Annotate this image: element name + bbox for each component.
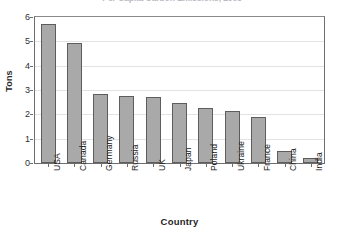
y-tick-label: 4 bbox=[4, 61, 30, 71]
x-tick-mark bbox=[48, 164, 49, 167]
bar bbox=[146, 97, 161, 163]
bar-chart-figure: Per Capita Carbon Emissions, 2005 Tons 0… bbox=[0, 0, 344, 239]
x-tick-label: Canada bbox=[78, 141, 88, 171]
y-tick-label: 3 bbox=[4, 85, 30, 95]
x-tick-label: India bbox=[314, 152, 324, 171]
x-axis-title: Country bbox=[34, 216, 325, 227]
x-axis-labels: USACanadaGermanyRussiaUKJapanPolandUkrai… bbox=[35, 165, 324, 211]
x-tick-mark bbox=[101, 164, 102, 167]
y-tick-mark bbox=[30, 139, 33, 140]
x-tick-mark bbox=[206, 164, 207, 167]
y-tick-mark bbox=[30, 114, 33, 115]
y-tick-label: 0 bbox=[4, 158, 30, 168]
chart-title: Per Capita Carbon Emissions, 2005 bbox=[0, 0, 344, 3]
x-tick-mark bbox=[153, 164, 154, 167]
x-tick-mark bbox=[258, 164, 259, 167]
y-tick-mark bbox=[30, 66, 33, 67]
x-tick-label: USA bbox=[52, 153, 62, 171]
y-tick-label: 6 bbox=[4, 12, 30, 22]
x-tick-mark bbox=[180, 164, 181, 167]
x-tick-label: UK bbox=[157, 159, 167, 171]
y-tick-label: 2 bbox=[4, 109, 30, 119]
y-axis-ticks: 0123456 bbox=[0, 16, 30, 164]
x-tick-mark bbox=[127, 164, 128, 167]
x-tick-mark bbox=[311, 164, 312, 167]
y-tick-label: 1 bbox=[4, 134, 30, 144]
y-tick-label: 5 bbox=[4, 36, 30, 46]
x-tick-mark bbox=[285, 164, 286, 167]
x-tick-label: France bbox=[262, 144, 272, 171]
y-tick-mark bbox=[30, 41, 33, 42]
x-tick-label: Ukraine bbox=[236, 141, 246, 171]
bar bbox=[41, 24, 56, 163]
y-tick-mark bbox=[30, 17, 33, 18]
x-tick-label: Japan bbox=[183, 147, 193, 171]
x-tick-label: China bbox=[288, 148, 298, 171]
x-tick-label: Poland bbox=[209, 144, 219, 171]
y-tick-mark bbox=[30, 90, 33, 91]
x-tick-label: Germany bbox=[104, 135, 114, 171]
x-tick-mark bbox=[232, 164, 233, 167]
x-tick-mark bbox=[74, 164, 75, 167]
y-tick-mark bbox=[30, 163, 33, 164]
x-tick-label: Russia bbox=[130, 144, 140, 171]
